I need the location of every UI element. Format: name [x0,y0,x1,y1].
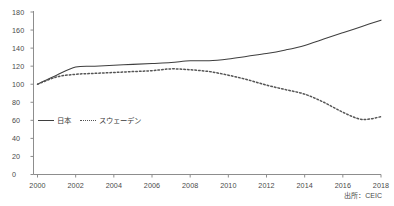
y-axis-tick-label: 160 [12,26,32,35]
x-axis-tick-label: 2016 [329,181,357,190]
y-axis-tick-label: 0 [12,170,32,179]
chart-legend: 日本 スウェーデン [38,117,141,124]
axis-lines [34,11,382,175]
series-line-sweden [38,69,382,120]
x-axis-tick-label: 2012 [253,181,281,190]
y-axis-tick-label: 180 [12,8,32,17]
x-axis-tick-label: 2000 [24,181,52,190]
x-axis-tick-label: 2010 [214,181,242,190]
x-axis-tick-label: 2004 [100,181,128,190]
legend-line-dotted-icon [80,120,96,121]
source-note: 出所：CEIC [344,190,382,200]
series-line-japan [38,20,382,84]
legend-label-sweden: スウェーデン [99,117,141,124]
legend-item-sweden[interactable]: スウェーデン [80,117,141,124]
x-axis-tick-label: 2008 [176,181,204,190]
y-axis-tick-label: 80 [12,98,32,107]
x-axis-tick-label: 2014 [291,181,319,190]
y-axis-tick-label: 20 [12,152,32,161]
y-axis-tick-label: 100 [12,80,32,89]
x-axis-tick-label: 2002 [62,181,90,190]
x-axis-tick-label: 2018 [367,181,394,190]
y-axis-tick-label: 60 [12,116,32,125]
y-axis-tick-label: 140 [12,44,32,53]
legend-label-japan: 日本 [57,117,71,124]
y-axis-tick-label: 40 [12,134,32,143]
legend-item-japan[interactable]: 日本 [38,117,71,124]
data-series-group [38,20,382,119]
y-axis-tick-label: 120 [12,62,32,71]
x-axis-tick-label: 2006 [138,181,166,190]
legend-line-solid-icon [38,120,54,121]
